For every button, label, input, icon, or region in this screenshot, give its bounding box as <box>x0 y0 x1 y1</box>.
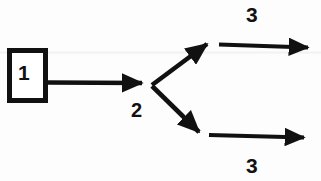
node-label-branch-bottom-3: 3 <box>246 155 258 176</box>
node-label-2: 2 <box>131 100 142 120</box>
diagram-svg <box>0 0 321 181</box>
edge-box1-to-node2 <box>48 83 142 84</box>
node-label-branch-top-3: 3 <box>246 4 258 25</box>
edge-node2-to-upper-branch <box>152 44 207 85</box>
edge-upper-branch-output <box>219 45 308 48</box>
node-label-box-1: 1 <box>18 62 30 83</box>
edge-lower-branch-output <box>209 135 304 138</box>
edge-node2-to-lower-branch <box>152 86 199 132</box>
diagram-canvas: 1 2 3 3 <box>0 0 321 181</box>
